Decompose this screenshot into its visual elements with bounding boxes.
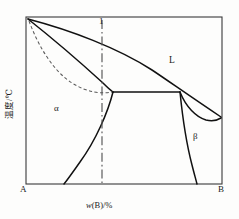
phase-diagram-canvas bbox=[0, 0, 239, 219]
region-label-alpha: α bbox=[54, 103, 59, 113]
x-axis-label: w(B)/% bbox=[86, 200, 112, 210]
alpha-solidus-curve bbox=[28, 19, 113, 92]
axis-corner-label-b: B bbox=[218, 184, 224, 194]
region-label-liquid: L bbox=[169, 55, 175, 65]
composition-line-label: 1 bbox=[99, 16, 104, 26]
alpha-solvus-curve bbox=[64, 92, 113, 184]
x-axis-label-units: (B)/% bbox=[92, 200, 113, 210]
axis-corner-label-a: A bbox=[20, 184, 27, 194]
region-label-beta: β bbox=[193, 131, 198, 141]
y-axis-label: 温度/℃ bbox=[2, 80, 14, 128]
phase-diagram-figure: 温度/℃ w(B)/% A B L α β 1 bbox=[0, 0, 239, 219]
beta-solidus-curve bbox=[180, 92, 221, 121]
